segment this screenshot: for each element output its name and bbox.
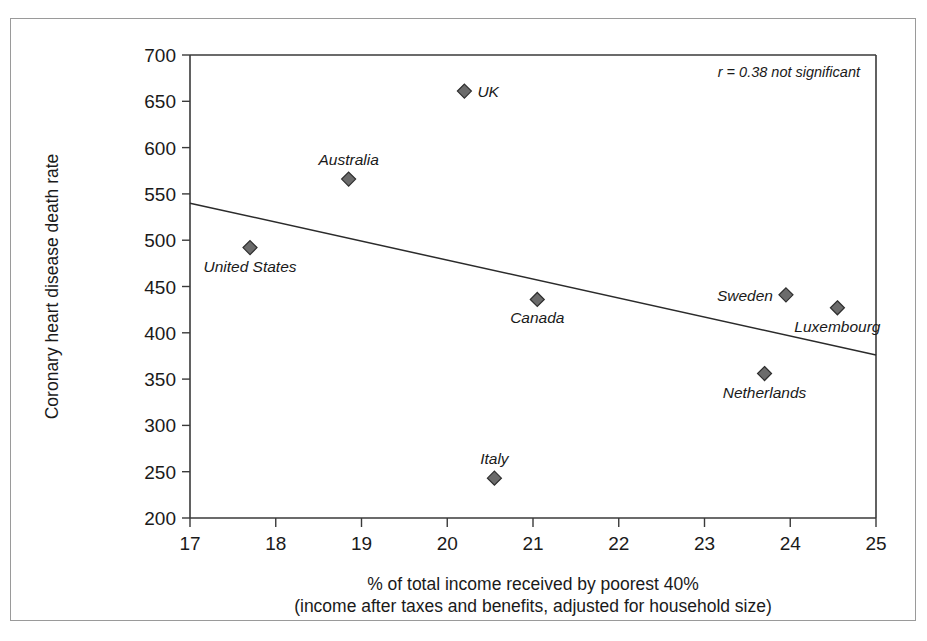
x-tick-label: 25 [865, 533, 886, 554]
y-tick-label: 200 [144, 508, 176, 529]
data-point-marker [243, 241, 257, 255]
y-tick-label: 400 [144, 323, 176, 344]
scatter-plot: 7006506005505004504003503002502001718192… [0, 0, 927, 641]
y-tick-label: 550 [144, 184, 176, 205]
y-tick-label: 250 [144, 462, 176, 483]
data-point-label: United States [203, 258, 296, 275]
correlation-annotation: r = 0.38 not significant [718, 64, 861, 80]
data-point-label: Sweden [717, 287, 773, 304]
x-tick-label: 17 [179, 533, 200, 554]
x-tick-label: 21 [522, 533, 543, 554]
y-tick-label: 650 [144, 91, 176, 112]
x-tick-label: 22 [608, 533, 629, 554]
y-axis-title: Coronary heart disease death rate [42, 154, 62, 420]
data-point-label: Luxembourg [794, 318, 881, 335]
x-tick-label: 24 [780, 533, 802, 554]
y-tick-label: 700 [144, 45, 176, 66]
data-point-label: Canada [510, 309, 565, 326]
trend-line [190, 203, 876, 355]
data-point-label: Australia [317, 151, 379, 168]
data-point-marker [530, 292, 544, 306]
x-tick-label: 23 [694, 533, 715, 554]
x-axis-title-line1: % of total income received by poorest 40… [367, 574, 699, 594]
data-point-marker [779, 288, 793, 302]
data-point-label: UK [477, 83, 499, 100]
data-point-label: Italy [480, 450, 510, 467]
x-tick-label: 19 [351, 533, 372, 554]
y-tick-label: 600 [144, 138, 176, 159]
x-tick-label: 18 [265, 533, 286, 554]
y-tick-label: 300 [144, 415, 176, 436]
figure-container: 7006506005505004504003503002502001718192… [0, 0, 927, 641]
data-point-marker [758, 367, 772, 381]
data-point-marker [487, 471, 501, 485]
data-point-marker [457, 84, 471, 98]
y-tick-label: 350 [144, 369, 176, 390]
x-axis-title-line2: (income after taxes and benefits, adjust… [294, 596, 772, 616]
data-point-marker [342, 172, 356, 186]
y-tick-label: 500 [144, 230, 176, 251]
data-point-marker [830, 301, 844, 315]
x-tick-label: 20 [437, 533, 458, 554]
y-tick-label: 450 [144, 277, 176, 298]
data-point-label: Netherlands [723, 384, 807, 401]
